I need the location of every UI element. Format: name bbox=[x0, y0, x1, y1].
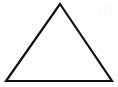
watermark-icon bbox=[109, 4, 112, 16]
triangle-diagram-svg bbox=[0, 0, 118, 87]
figure-canvas bbox=[0, 0, 118, 87]
watermark-icon bbox=[98, 11, 102, 16]
watermark-icon bbox=[104, 4, 107, 16]
